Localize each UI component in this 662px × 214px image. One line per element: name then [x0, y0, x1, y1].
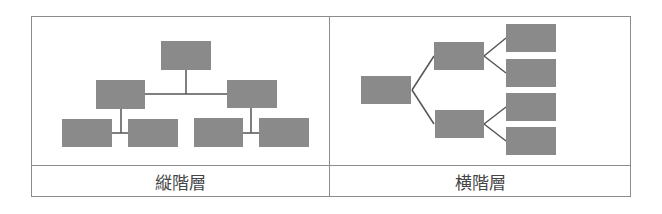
horizontal-hierarchy-boxes: [361, 24, 556, 155]
hierarchy-diagrams: [0, 0, 662, 214]
